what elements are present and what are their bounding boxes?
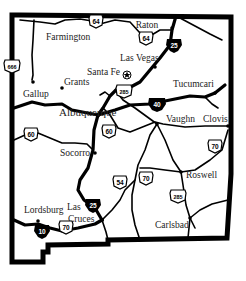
us-route-shield-icon: 666 — [4, 60, 20, 73]
city-label-farmington: Farmington — [46, 32, 91, 42]
svg-text:666: 666 — [7, 64, 16, 70]
city-label-tucumcari: Tucumcari — [173, 79, 214, 89]
us-route-shield-icon: 60 — [102, 125, 116, 138]
city-label-clovis: Clovis — [203, 114, 228, 124]
city-label-vaughn: Vaughn — [166, 114, 195, 124]
svg-text:60: 60 — [105, 128, 113, 135]
us-route-shield-icon: 64 — [139, 32, 153, 45]
city-label-grants: Grants — [64, 77, 90, 87]
interstate-shield-icon: 25 — [85, 199, 101, 213]
city-label-gallup: Gallup — [23, 89, 49, 99]
city-label-las: Las — [67, 202, 81, 212]
city-label-carlsbad: Carlsbad — [155, 220, 189, 230]
city-label-socorro: Socorro — [60, 148, 90, 158]
city-labels: Farmington Raton Las Vegas Santa Fe Gran… — [23, 20, 228, 230]
svg-text:25: 25 — [89, 202, 97, 209]
new-mexico-map: Farmington Raton Las Vegas Santa Fe Gran… — [0, 0, 246, 281]
capital-star-icon — [123, 71, 131, 79]
interstate-shield-icon: 10 — [34, 225, 50, 239]
svg-text:64: 64 — [92, 18, 100, 25]
us-route-shield-icon: 70 — [208, 140, 222, 153]
us-route-shield-icon: 285 — [116, 85, 132, 98]
interstate-shield-icon: 25 — [166, 39, 182, 53]
us-route-shield-icon: 285 — [170, 190, 186, 203]
svg-text:285: 285 — [119, 89, 128, 95]
us-route-shield-icon: 70 — [59, 221, 73, 234]
svg-text:64: 64 — [142, 35, 150, 42]
city-label-santa-fe: Santa Fe — [87, 67, 120, 77]
svg-text:40: 40 — [153, 101, 161, 108]
svg-text:70: 70 — [211, 143, 219, 150]
city-label-albuquerque: Albuquerque — [59, 106, 117, 118]
svg-text:54: 54 — [116, 179, 124, 186]
svg-text:285: 285 — [173, 194, 182, 200]
interstate-shield-icon: 40 — [148, 98, 166, 112]
city-label-raton: Raton — [136, 20, 159, 30]
city-label-lordsburg: Lordsburg — [24, 205, 64, 215]
city-label-roswell: Roswell — [186, 170, 218, 180]
svg-text:70: 70 — [62, 224, 70, 231]
us-route-shield-icon: 70 — [139, 172, 153, 185]
svg-text:70: 70 — [142, 175, 150, 182]
us-route-shield-icon: 54 — [113, 176, 127, 189]
us-route-shield-icon: 64 — [89, 15, 103, 28]
city-label-las-vegas: Las Vegas — [120, 53, 159, 63]
svg-text:25: 25 — [170, 42, 178, 49]
svg-text:10: 10 — [38, 228, 46, 235]
us-route-shield-icon: 60 — [24, 128, 38, 141]
svg-text:60: 60 — [27, 131, 35, 138]
